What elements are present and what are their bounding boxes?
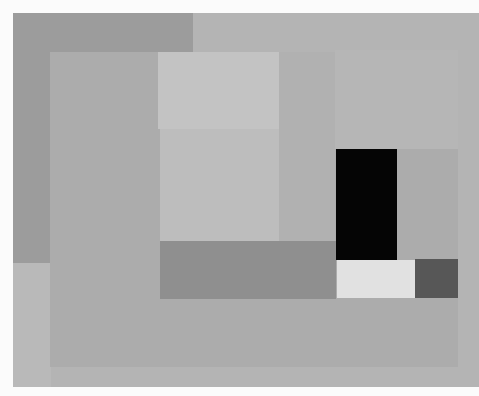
black-block — [336, 149, 397, 260]
top-light-panel — [158, 52, 279, 129]
right-column-panel — [279, 52, 335, 241]
dark-horizontal-bar — [160, 241, 336, 299]
light-lower-left-strip — [13, 263, 51, 387]
middle-light-panel — [160, 129, 279, 241]
right-inner-field — [335, 50, 458, 149]
white-block — [337, 260, 415, 298]
charcoal-block — [415, 259, 458, 298]
